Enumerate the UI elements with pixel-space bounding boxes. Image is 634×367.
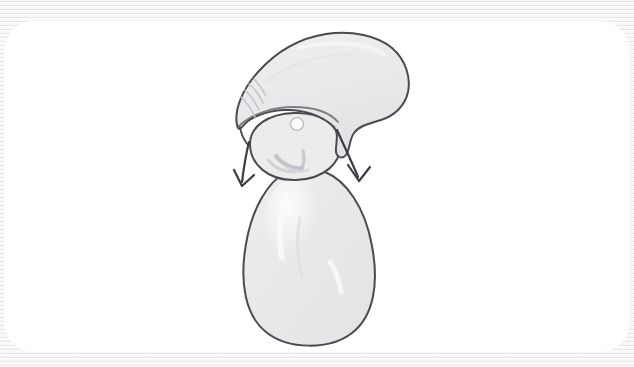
gnome-head <box>250 113 340 180</box>
screenshot-stage: Hand-drawn light pencil sketch of a gnom… <box>0 0 634 367</box>
body-highlight <box>262 178 330 286</box>
gnome-body <box>243 168 375 345</box>
nose <box>291 118 304 131</box>
sketch-drawing <box>0 0 634 367</box>
hat-left-flap <box>240 127 248 145</box>
